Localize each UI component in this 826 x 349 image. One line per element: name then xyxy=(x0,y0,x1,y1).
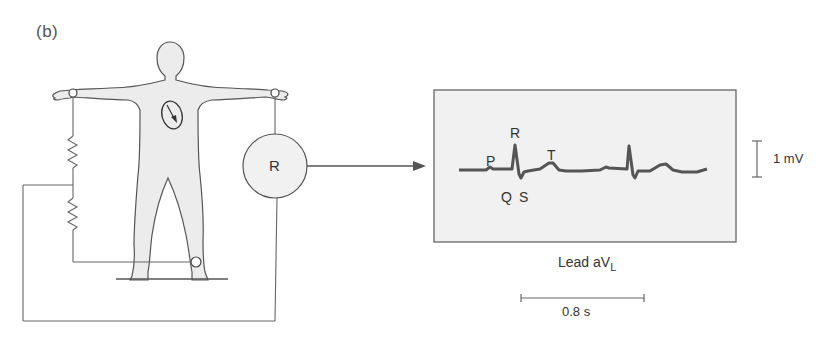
time-scale-label: 0.8 s xyxy=(562,304,590,319)
voltage-scale-label: 1 mV xyxy=(773,151,803,166)
wave-label-p: P xyxy=(486,153,495,169)
lead-label-subscript: L xyxy=(610,261,616,273)
electrode-right-arm xyxy=(69,89,77,97)
arrow-head-icon xyxy=(413,161,426,171)
resistor-bottom-icon xyxy=(68,198,77,230)
lead-label-prefix: Lead aV xyxy=(558,254,610,270)
ecg-lead-diagram xyxy=(0,0,826,349)
electrode-left-arm xyxy=(271,89,279,97)
ecg-display-box xyxy=(434,90,736,242)
recorder-label: R xyxy=(269,157,280,174)
time-scale-bar xyxy=(521,294,644,302)
lead-label: Lead aVL xyxy=(558,254,616,273)
electrode-left-leg xyxy=(191,257,201,267)
wave-label-t: T xyxy=(547,147,556,163)
panel-label: (b) xyxy=(36,22,58,42)
voltage-scale-bar xyxy=(752,141,762,177)
resistor-top-icon xyxy=(68,136,77,168)
wave-label-s: S xyxy=(519,189,528,205)
wave-label-r: R xyxy=(510,125,520,141)
wave-label-q: Q xyxy=(501,189,512,205)
